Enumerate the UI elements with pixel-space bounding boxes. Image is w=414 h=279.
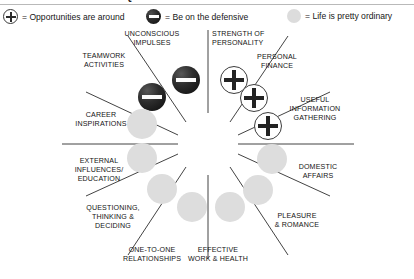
sector-label-teamwork-activities: TEAMWORK ACTIVITIES bbox=[72, 52, 136, 70]
sector-label-external-influences: EXTERNAL INFLUENCES/ EDUCATION bbox=[64, 157, 134, 184]
sector-marker-questioning-thinking bbox=[147, 174, 177, 204]
sector-marker-unconscious-impulses bbox=[172, 66, 200, 94]
minus-dark-circle-icon bbox=[146, 9, 161, 24]
sector-label-strength-of-personality: STRENGTH OF PERSONALITY bbox=[212, 30, 286, 48]
sector-label-personal-finance: PERSONAL FINANCE bbox=[246, 53, 308, 71]
sector-label-effective-work-health: EFFECTIVE WORK & HEALTH bbox=[182, 246, 254, 264]
spoke-lines bbox=[0, 28, 414, 279]
sector-label-career-inspirations: CAREER INSPIRATIONS bbox=[66, 111, 136, 129]
legend-item-defensive: = Be on the defensive bbox=[146, 9, 248, 24]
sector-marker-effective-work-health bbox=[215, 192, 245, 222]
plus-circle-icon bbox=[3, 9, 18, 24]
radial-diagram: TEAMWORK ACTIVITIES UNCONSCIOUS IMPULSES… bbox=[0, 28, 414, 279]
gray-circle-icon bbox=[287, 9, 301, 23]
legend-item-opportunities: = Opportunities are around bbox=[3, 9, 124, 24]
sector-label-pleasure-romance: PLEASURE & ROMANCE bbox=[264, 212, 330, 230]
sector-label-useful-information: USEFUL INFORMATION GATHERING bbox=[282, 96, 348, 123]
legend-label-defensive: = Be on the defensive bbox=[165, 12, 248, 22]
sector-marker-domestic-affairs bbox=[257, 144, 287, 174]
sector-marker-teamwork-activities bbox=[138, 83, 166, 111]
legend: = Opportunities are around = Be on the d… bbox=[0, 8, 414, 28]
sector-label-one-to-one-relationships: ONE-TO-ONE RELATIONSHIPS bbox=[114, 246, 190, 264]
title-divider bbox=[0, 4, 414, 5]
sector-label-domestic-affairs: DOMESTIC AFFAIRS bbox=[288, 163, 348, 181]
sector-label-questioning-thinking: QUESTIONING, THINKING & DECIDING bbox=[78, 204, 148, 231]
legend-label-ordinary: = Life is pretty ordinary bbox=[305, 11, 392, 21]
sector-marker-pleasure-romance bbox=[243, 175, 273, 205]
sector-marker-useful-information bbox=[254, 112, 282, 140]
horoscope-squares-diagram-page: YOUR HOROSCOPE IN SQUARES = Opportunitie… bbox=[0, 0, 414, 279]
legend-item-ordinary: = Life is pretty ordinary bbox=[287, 9, 392, 23]
sector-marker-personal-finance bbox=[240, 84, 268, 112]
sector-label-unconscious-impulses: UNCONSCIOUS IMPULSES bbox=[116, 30, 188, 48]
sector-marker-one-to-one-relationships bbox=[177, 192, 207, 222]
page-title: YOUR HOROSCOPE IN SQUARES bbox=[2, 0, 169, 2]
legend-label-opportunities: = Opportunities are around bbox=[22, 12, 124, 22]
